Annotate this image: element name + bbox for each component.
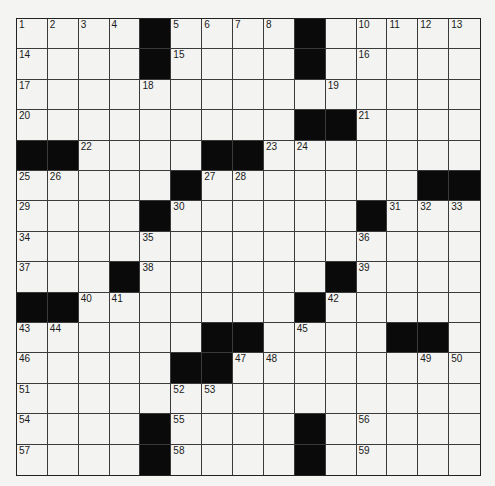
crossword-cell[interactable] [79, 171, 110, 201]
crossword-cell[interactable]: 44 [48, 323, 79, 353]
crossword-cell[interactable]: 47 [233, 353, 264, 383]
crossword-cell[interactable] [79, 323, 110, 353]
crossword-cell[interactable]: 49 [418, 353, 449, 383]
crossword-cell[interactable]: 38 [140, 262, 171, 292]
crossword-cell[interactable] [140, 384, 171, 414]
crossword-cell[interactable] [326, 201, 357, 231]
crossword-cell[interactable] [48, 262, 79, 292]
crossword-cell[interactable] [326, 353, 357, 383]
crossword-cell[interactable] [264, 445, 295, 475]
crossword-cell[interactable] [418, 445, 449, 475]
crossword-cell[interactable] [387, 110, 418, 140]
crossword-cell[interactable] [79, 384, 110, 414]
crossword-cell[interactable] [326, 49, 357, 79]
crossword-cell[interactable] [326, 323, 357, 353]
crossword-cell[interactable]: 31 [387, 201, 418, 231]
crossword-cell[interactable] [326, 445, 357, 475]
crossword-cell[interactable] [326, 384, 357, 414]
crossword-cell[interactable] [326, 19, 357, 49]
crossword-cell[interactable] [357, 171, 388, 201]
crossword-cell[interactable] [48, 232, 79, 262]
crossword-cell[interactable] [233, 414, 264, 444]
crossword-cell[interactable] [264, 80, 295, 110]
crossword-cell[interactable] [110, 323, 141, 353]
crossword-cell[interactable] [326, 232, 357, 262]
crossword-cell[interactable] [449, 293, 480, 323]
crossword-cell[interactable] [418, 262, 449, 292]
crossword-cell[interactable] [449, 384, 480, 414]
crossword-cell[interactable] [110, 414, 141, 444]
crossword-cell[interactable] [387, 384, 418, 414]
crossword-cell[interactable]: 55 [171, 414, 202, 444]
crossword-cell[interactable]: 54 [17, 414, 48, 444]
crossword-cell[interactable] [171, 323, 202, 353]
crossword-cell[interactable] [140, 110, 171, 140]
crossword-cell[interactable] [295, 232, 326, 262]
crossword-cell[interactable] [233, 80, 264, 110]
crossword-cell[interactable] [171, 110, 202, 140]
crossword-cell[interactable] [418, 293, 449, 323]
crossword-cell[interactable] [79, 201, 110, 231]
crossword-cell[interactable] [202, 232, 233, 262]
crossword-cell[interactable]: 23 [264, 141, 295, 171]
crossword-cell[interactable]: 35 [140, 232, 171, 262]
crossword-cell[interactable]: 16 [357, 49, 388, 79]
crossword-cell[interactable] [357, 80, 388, 110]
crossword-cell[interactable]: 27 [202, 171, 233, 201]
crossword-cell[interactable]: 57 [17, 445, 48, 475]
crossword-cell[interactable] [110, 171, 141, 201]
crossword-cell[interactable]: 15 [171, 49, 202, 79]
crossword-cell[interactable] [264, 201, 295, 231]
crossword-cell[interactable]: 4 [110, 19, 141, 49]
crossword-cell[interactable]: 10 [357, 19, 388, 49]
crossword-cell[interactable]: 13 [449, 19, 480, 49]
crossword-cell[interactable] [79, 353, 110, 383]
crossword-cell[interactable]: 26 [48, 171, 79, 201]
crossword-cell[interactable] [171, 293, 202, 323]
crossword-cell[interactable] [110, 80, 141, 110]
crossword-cell[interactable]: 48 [264, 353, 295, 383]
crossword-cell[interactable]: 32 [418, 201, 449, 231]
crossword-cell[interactable] [48, 201, 79, 231]
crossword-cell[interactable] [233, 232, 264, 262]
crossword-cell[interactable] [79, 445, 110, 475]
crossword-cell[interactable] [140, 323, 171, 353]
crossword-cell[interactable]: 51 [17, 384, 48, 414]
crossword-cell[interactable] [233, 201, 264, 231]
crossword-cell[interactable] [418, 414, 449, 444]
crossword-cell[interactable] [326, 414, 357, 444]
crossword-cell[interactable]: 19 [326, 80, 357, 110]
crossword-cell[interactable] [110, 353, 141, 383]
crossword-cell[interactable]: 56 [357, 414, 388, 444]
crossword-cell[interactable] [79, 262, 110, 292]
crossword-cell[interactable] [202, 49, 233, 79]
crossword-cell[interactable] [418, 384, 449, 414]
crossword-cell[interactable] [264, 384, 295, 414]
crossword-cell[interactable] [79, 414, 110, 444]
crossword-cell[interactable] [140, 353, 171, 383]
crossword-cell[interactable] [233, 384, 264, 414]
crossword-cell[interactable] [449, 414, 480, 444]
crossword-cell[interactable]: 29 [17, 201, 48, 231]
crossword-cell[interactable] [387, 262, 418, 292]
crossword-cell[interactable] [110, 110, 141, 140]
crossword-cell[interactable] [387, 293, 418, 323]
crossword-cell[interactable] [295, 80, 326, 110]
crossword-cell[interactable] [140, 171, 171, 201]
crossword-cell[interactable] [79, 49, 110, 79]
crossword-cell[interactable] [233, 445, 264, 475]
crossword-cell[interactable]: 39 [357, 262, 388, 292]
crossword-cell[interactable] [48, 384, 79, 414]
crossword-cell[interactable] [264, 49, 295, 79]
crossword-cell[interactable]: 37 [17, 262, 48, 292]
crossword-cell[interactable] [48, 80, 79, 110]
crossword-cell[interactable]: 22 [79, 141, 110, 171]
crossword-cell[interactable]: 24 [295, 141, 326, 171]
crossword-cell[interactable] [202, 110, 233, 140]
crossword-cell[interactable]: 20 [17, 110, 48, 140]
crossword-cell[interactable] [202, 293, 233, 323]
crossword-cell[interactable]: 1 [17, 19, 48, 49]
crossword-cell[interactable] [48, 414, 79, 444]
crossword-cell[interactable] [449, 232, 480, 262]
crossword-cell[interactable] [171, 262, 202, 292]
